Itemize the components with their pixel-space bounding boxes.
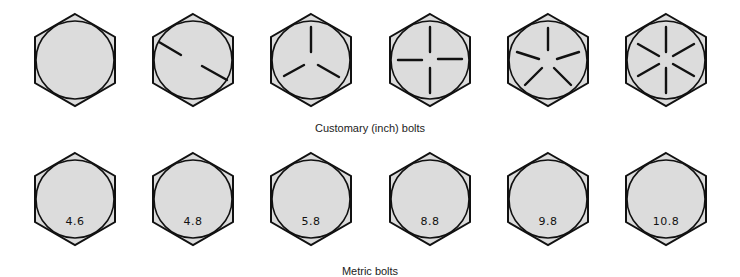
metric-bolt-head-5-8: 5.8 (271, 153, 351, 245)
metric-bolt-head-8-8: 8.8 (390, 153, 470, 245)
grade-label: 8.8 (421, 215, 440, 228)
grade-label: 4.8 (184, 215, 203, 228)
bolt-head-6-marks (626, 14, 706, 106)
grade-label: 5.8 (302, 215, 321, 228)
bolt-head-5-marks (508, 14, 588, 106)
bolt-head-markings-diagram: 4.6 4.8 5.8 8.8 9.8 10.8 (0, 0, 740, 277)
metric-bolt-head-4-6: 4.6 (35, 153, 115, 245)
metric-bolt-row: 4.6 4.8 5.8 8.8 9.8 10.8 (35, 153, 706, 245)
customary-bolt-row (35, 14, 706, 106)
bolt-head-no-marks (35, 14, 115, 106)
metric-bolt-head-9-8: 9.8 (508, 153, 588, 245)
metric-bolt-head-4-8: 4.8 (153, 153, 233, 245)
bolt-head-3-marks (271, 14, 351, 106)
bolt-head-4-marks (390, 14, 470, 106)
grade-label: 9.8 (539, 215, 558, 228)
grade-label: 10.8 (653, 215, 680, 228)
metric-bolts-caption: Metric bolts (0, 265, 740, 277)
grade-label: 4.6 (66, 215, 85, 228)
metric-bolt-head-10-8: 10.8 (626, 153, 706, 245)
customary-bolts-caption: Customary (inch) bolts (0, 122, 740, 134)
bolt-head-2-marks (153, 14, 233, 106)
